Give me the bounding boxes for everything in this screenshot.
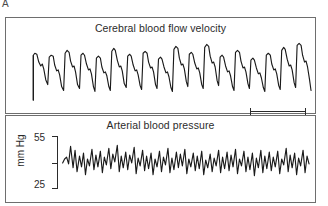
abp-waveform [63,145,309,175]
yaxis-bracket-cap-bottom [52,188,58,189]
scalebar-cbfv-bar [250,108,306,114]
yaxis-scale-bracket [52,136,58,189]
yaxis-tick-high: 55 [34,132,45,143]
yaxis-unit-label: mm Hg [15,128,26,174]
yaxis-abp: mm Hg 55 25 [9,133,61,193]
figure-container: A Cerebral blood flow velocity 1 sec Art… [0,0,328,206]
panel-letter-label: A [2,0,9,9]
yaxis-bracket-midtick [52,163,57,164]
scalebar-cbfv-tick-right [305,108,306,115]
panel-cerebral-blood-flow-velocity: Cerebral blood flow velocity 1 sec [5,17,316,114]
cbfv-trace-plot [6,18,315,113]
scalebar-cbfv-line [250,111,306,112]
cbfv-waveform [33,43,311,100]
yaxis-tick-low: 25 [34,179,45,190]
